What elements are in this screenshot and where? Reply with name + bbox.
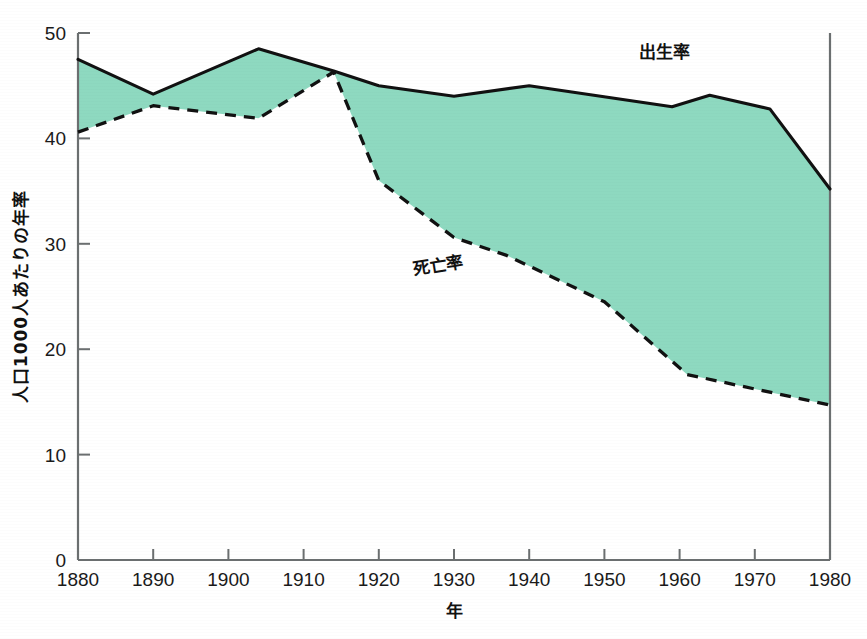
x-axis-tick-labels: 1880189019001910192019301940195019601970… bbox=[57, 569, 851, 590]
x-tick-label: 1890 bbox=[132, 569, 174, 590]
x-tick-label: 1910 bbox=[282, 569, 324, 590]
x-tick-label: 1940 bbox=[508, 569, 550, 590]
y-axis-tick-labels: 01020304050 bbox=[45, 23, 66, 571]
x-tick-label: 1930 bbox=[433, 569, 475, 590]
y-tick-label: 40 bbox=[45, 128, 66, 149]
x-tick-label: 1980 bbox=[809, 569, 851, 590]
x-tick-label: 1970 bbox=[734, 569, 776, 590]
x-tick-label: 1900 bbox=[207, 569, 249, 590]
y-axis-title: 人口1000人あたりの年率 bbox=[11, 190, 31, 403]
x-tick-label: 1950 bbox=[583, 569, 625, 590]
x-axis-ticks bbox=[78, 549, 830, 560]
x-tick-label: 1960 bbox=[658, 569, 700, 590]
y-tick-label: 10 bbox=[45, 445, 66, 466]
x-axis-title: 年 bbox=[446, 601, 463, 621]
death-rate-label: 死亡率 bbox=[411, 251, 465, 279]
birth-rate-label: 出生率 bbox=[639, 42, 690, 62]
y-tick-label: 50 bbox=[45, 23, 66, 44]
y-tick-label: 20 bbox=[45, 339, 66, 360]
natural-increase-band bbox=[78, 49, 830, 405]
birth-death-rate-area-chart: 01020304050 1880189019001910192019301940… bbox=[0, 0, 867, 639]
y-tick-label: 0 bbox=[55, 550, 66, 571]
y-tick-label: 30 bbox=[45, 234, 66, 255]
chart-container: 01020304050 1880189019001910192019301940… bbox=[0, 0, 867, 639]
x-tick-label: 1920 bbox=[358, 569, 400, 590]
x-tick-label: 1880 bbox=[57, 569, 99, 590]
